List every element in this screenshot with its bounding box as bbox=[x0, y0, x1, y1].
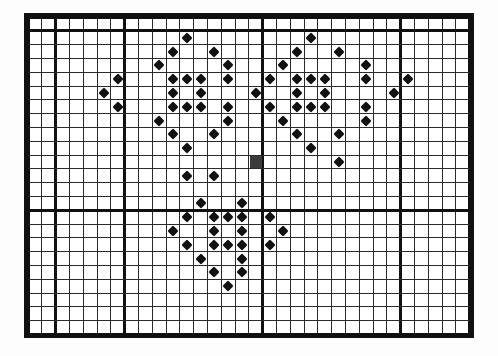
diamond-symbol bbox=[181, 239, 192, 250]
diamond-symbol bbox=[360, 60, 371, 71]
grid-line-major-vertical bbox=[123, 17, 126, 334]
diamond-symbol bbox=[181, 142, 192, 153]
diamond-symbol bbox=[181, 32, 192, 43]
diamond-symbol bbox=[209, 170, 220, 181]
diamond-symbol bbox=[278, 115, 289, 126]
diamond-symbol bbox=[167, 101, 178, 112]
diamond-symbol bbox=[98, 87, 109, 98]
diamond-symbol bbox=[209, 267, 220, 278]
diamond-symbol bbox=[209, 239, 220, 250]
diamond-symbol bbox=[209, 225, 220, 236]
grid-line-minor-vertical bbox=[248, 17, 249, 334]
solid-block-symbol bbox=[250, 156, 262, 168]
diamond-symbol bbox=[195, 87, 206, 98]
grid-line-minor-horizontal bbox=[28, 196, 470, 197]
grid-line-minor-horizontal bbox=[28, 58, 470, 59]
diamond-symbol bbox=[236, 267, 247, 278]
diamond-symbol bbox=[388, 87, 399, 98]
diamond-symbol bbox=[319, 87, 330, 98]
diamond-symbol bbox=[278, 225, 289, 236]
grid-line-minor-vertical bbox=[290, 17, 291, 334]
diamond-symbol bbox=[222, 280, 233, 291]
diamond-symbol bbox=[153, 60, 164, 71]
diamond-symbol bbox=[250, 87, 261, 98]
diamond-symbol bbox=[167, 129, 178, 140]
diamond-symbol bbox=[236, 253, 247, 264]
grid-line-minor-vertical bbox=[428, 17, 429, 334]
grid-line-minor-vertical bbox=[235, 17, 236, 334]
grid-line-major-horizontal bbox=[28, 29, 470, 32]
diamond-symbol bbox=[222, 73, 233, 84]
diamond-symbol bbox=[360, 115, 371, 126]
diamond-symbol bbox=[195, 73, 206, 84]
diamond-symbol bbox=[291, 87, 302, 98]
diamond-symbol bbox=[167, 46, 178, 57]
diamond-symbol bbox=[402, 73, 413, 84]
diamond-symbol bbox=[181, 170, 192, 181]
grid-line-minor-horizontal bbox=[28, 265, 470, 266]
grid-line-major-horizontal bbox=[28, 333, 470, 336]
grid-line-minor-vertical bbox=[193, 17, 194, 334]
grid-line-minor-vertical bbox=[179, 17, 180, 334]
grid-line-minor-vertical bbox=[97, 17, 98, 334]
grid-line-minor-horizontal bbox=[28, 306, 470, 307]
diamond-symbol bbox=[209, 46, 220, 57]
diamond-symbol bbox=[319, 101, 330, 112]
grid-line-major-vertical bbox=[54, 17, 57, 334]
diamond-symbol bbox=[360, 73, 371, 84]
diamond-symbol bbox=[236, 198, 247, 209]
diamond-symbol bbox=[209, 129, 220, 140]
grid-line-major-vertical bbox=[27, 17, 30, 334]
diamond-symbol bbox=[181, 73, 192, 84]
grid-line-minor-vertical bbox=[317, 17, 318, 334]
grid-line-minor-horizontal bbox=[28, 224, 470, 225]
grid-line-minor-vertical bbox=[345, 17, 346, 334]
grid-line-minor-vertical bbox=[110, 17, 111, 334]
grid-line-minor-horizontal bbox=[28, 237, 470, 238]
grid-line-minor-vertical bbox=[138, 17, 139, 334]
diamond-symbol bbox=[167, 73, 178, 84]
grid-line-major-horizontal bbox=[28, 209, 470, 212]
grid-line-minor-vertical bbox=[69, 17, 70, 334]
grid-line-minor-vertical bbox=[166, 17, 167, 334]
diamond-symbol bbox=[291, 101, 302, 112]
grid-line-minor-horizontal bbox=[28, 279, 470, 280]
diamond-symbol bbox=[222, 101, 233, 112]
diamond-symbol bbox=[236, 225, 247, 236]
diamond-symbol bbox=[112, 101, 123, 112]
diamond-symbol bbox=[195, 101, 206, 112]
diamond-symbol bbox=[333, 129, 344, 140]
grid-line-minor-horizontal bbox=[28, 251, 470, 252]
grid-line-major-vertical bbox=[261, 17, 264, 334]
grid-line-minor-horizontal bbox=[28, 86, 470, 87]
diamond-symbol bbox=[305, 142, 316, 153]
diamond-symbol bbox=[112, 73, 123, 84]
diamond-symbol bbox=[264, 211, 275, 222]
chart-grid-area bbox=[28, 17, 470, 334]
grid-line-minor-vertical bbox=[442, 17, 443, 334]
grid-line-minor-horizontal bbox=[28, 168, 470, 169]
diamond-symbol bbox=[153, 115, 164, 126]
grid-line-minor-vertical bbox=[455, 17, 456, 334]
diamond-symbol bbox=[222, 60, 233, 71]
grid-line-minor-vertical bbox=[414, 17, 415, 334]
diamond-symbol bbox=[167, 87, 178, 98]
diamond-symbol bbox=[333, 156, 344, 167]
diamond-symbol bbox=[305, 32, 316, 43]
diamond-symbol bbox=[305, 101, 316, 112]
grid-line-major-horizontal bbox=[28, 16, 470, 19]
grid-line-minor-horizontal bbox=[28, 320, 470, 321]
grid-line-minor-horizontal bbox=[28, 72, 470, 73]
diamond-symbol bbox=[209, 211, 220, 222]
grid-line-minor-vertical bbox=[331, 17, 332, 334]
grid-line-minor-vertical bbox=[373, 17, 374, 334]
diamond-symbol bbox=[167, 225, 178, 236]
grid-line-minor-horizontal bbox=[28, 99, 470, 100]
grid-line-minor-horizontal bbox=[28, 141, 470, 142]
diamond-symbol bbox=[305, 73, 316, 84]
grid-line-minor-vertical bbox=[83, 17, 84, 334]
grid-line-minor-horizontal bbox=[28, 113, 470, 114]
diamond-symbol bbox=[319, 73, 330, 84]
grid-line-minor-vertical bbox=[41, 17, 42, 334]
diamond-symbol bbox=[291, 46, 302, 57]
